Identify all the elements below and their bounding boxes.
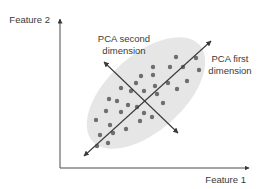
data-point (106, 141, 110, 145)
pca-first-label-line1: PCA first (212, 53, 249, 64)
data-point (98, 133, 102, 137)
data-point (168, 65, 172, 69)
data-point (150, 115, 154, 119)
data-point (107, 97, 111, 101)
data-point (104, 109, 108, 113)
data-point (151, 73, 155, 77)
data-point (134, 81, 138, 85)
pca-second-label-line2: dimension (102, 45, 145, 56)
data-point (161, 101, 165, 105)
data-point (142, 89, 146, 93)
data-point (124, 127, 128, 131)
pca-second-label-line1: PCA second (98, 33, 150, 44)
data-point (119, 86, 123, 90)
data-point (185, 79, 189, 83)
y-axis-label: Feature 2 (9, 14, 50, 25)
data-point (153, 84, 157, 88)
pca-diagram: Feature 2 Feature 1 PCA second dimension… (0, 0, 259, 189)
data-point (119, 110, 123, 114)
data-point (139, 74, 143, 78)
data-point (197, 68, 201, 72)
data-point (126, 103, 130, 107)
x-axis-label: Feature 1 (205, 174, 246, 185)
data-point (174, 55, 178, 59)
data-point (175, 87, 179, 91)
data-point (115, 99, 119, 103)
data-point (151, 65, 155, 69)
data-point (142, 111, 146, 115)
data-point (108, 123, 112, 127)
data-point (94, 118, 98, 122)
data-point (138, 119, 142, 123)
data-point (155, 92, 159, 96)
pca-first-label-line2: dimension (208, 65, 251, 76)
